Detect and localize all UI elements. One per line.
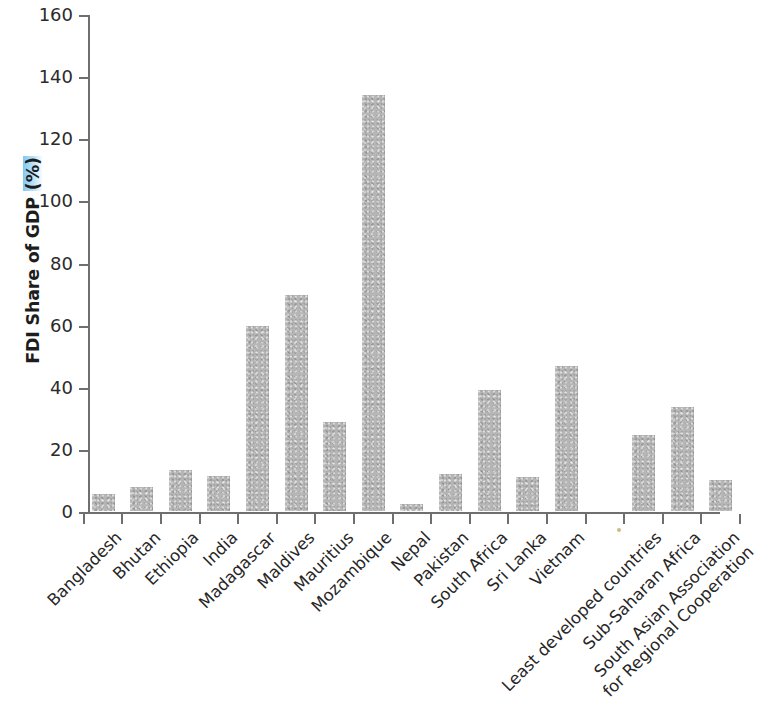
y-tick-label: 120: [39, 128, 73, 149]
y-tick: 80: [79, 264, 88, 266]
x-tick: [276, 514, 278, 524]
x-tick: [237, 514, 239, 524]
y-axis-line: [88, 15, 90, 514]
x-tick: [700, 514, 702, 524]
x-axis-line: [88, 512, 720, 514]
y-tick-label: 0: [62, 501, 73, 522]
y-tick-label: 100: [39, 190, 73, 211]
x-tick: [430, 514, 432, 524]
y-tick-label: 60: [50, 315, 73, 336]
plot-area: 020406080100120140160: [88, 15, 718, 513]
y-tick-label: 160: [39, 4, 73, 25]
y-tick: 60: [79, 326, 88, 328]
bar: [555, 366, 578, 511]
bar: [246, 326, 269, 511]
y-tick-label: 140: [39, 66, 73, 87]
x-tick: [353, 514, 355, 524]
y-tick: 20: [79, 450, 88, 452]
bar: [439, 474, 462, 511]
bar: [323, 422, 346, 511]
y-axis-title-text: FDI Share of GDP: [23, 191, 43, 364]
x-tick: [469, 514, 471, 524]
bar: [632, 435, 655, 511]
y-axis-title-highlight: (%): [23, 156, 43, 191]
y-axis-title: FDI Share of GDP (%): [23, 135, 43, 385]
y-tick: 40: [79, 388, 88, 390]
y-tick: 100: [79, 201, 88, 203]
x-axis-label-line: South Asian Association: [584, 528, 743, 687]
bar: [400, 504, 423, 511]
bar: [169, 470, 192, 511]
x-tick: [507, 514, 509, 524]
bar-chart: FDI Share of GDP (%) 0204060801001201401…: [0, 0, 772, 709]
bar: [516, 477, 539, 511]
scan-speck-artifact: [617, 528, 621, 532]
x-tick: [546, 514, 548, 524]
x-tick: [662, 514, 664, 524]
y-tick-label: 80: [50, 253, 73, 274]
x-tick: [392, 514, 394, 524]
bar: [130, 487, 153, 511]
bar: [362, 95, 385, 511]
y-tick-label: 20: [50, 439, 73, 460]
x-tick: [199, 514, 201, 524]
x-tick: [83, 514, 85, 524]
x-tick: [314, 514, 316, 524]
bar: [207, 476, 230, 511]
y-tick: 120: [79, 139, 88, 141]
x-tick: [623, 514, 625, 524]
x-tick: [739, 514, 741, 524]
bar: [709, 480, 732, 511]
x-tick: [160, 514, 162, 524]
bar: [285, 295, 308, 511]
bar: [92, 494, 115, 511]
y-tick-label: 40: [50, 377, 73, 398]
x-tick: [585, 514, 587, 524]
y-tick: 160: [79, 15, 88, 17]
bar: [478, 390, 501, 511]
x-tick: [121, 514, 123, 524]
y-tick: 140: [79, 77, 88, 79]
bar: [671, 407, 694, 511]
